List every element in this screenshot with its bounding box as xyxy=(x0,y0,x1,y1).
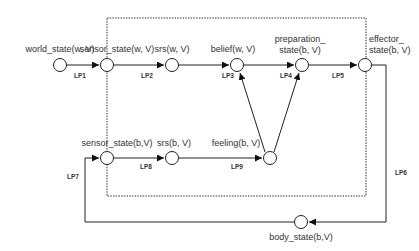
link-label-lp9: LP9 xyxy=(231,163,243,170)
link-label-lp1: LP1 xyxy=(74,72,86,79)
label-belief-w: belief(w, V) xyxy=(211,44,256,54)
node-effector-state-b xyxy=(359,59,372,72)
link-label-lp7: LP7 xyxy=(67,173,79,180)
label-preparation-state-b-line2: state(b, V) xyxy=(279,45,321,55)
edge-feeling-to-preparation xyxy=(274,73,299,152)
label-preparation-state-b-line1: preparation_ xyxy=(275,34,327,44)
node-srs-w xyxy=(166,59,179,72)
node-srs-b xyxy=(166,152,179,165)
label-srs-b: srs(b, V) xyxy=(157,138,191,148)
node-world-state-w xyxy=(54,59,67,72)
node-preparation-state-b xyxy=(296,59,309,72)
label-effector-state-b-line2: state(b, V) xyxy=(369,45,411,55)
label-sensor-state-w: sensor_state(w, V) xyxy=(80,44,155,54)
node-body-state-b xyxy=(295,216,308,229)
edge-lp7 xyxy=(85,158,294,222)
link-label-lp3: LP3 xyxy=(222,72,234,79)
node-sensor-state-w xyxy=(101,59,114,72)
label-feeling-b: feeling(b, V) xyxy=(212,138,261,148)
link-label-lp8: LP8 xyxy=(140,163,152,170)
link-label-lp5: LP5 xyxy=(332,72,344,79)
label-sensor-state-b: sensor_state(b,V) xyxy=(81,138,152,148)
node-belief-w xyxy=(231,59,244,72)
node-feeling-b xyxy=(264,152,277,165)
label-effector-state-b-line1: effector_ xyxy=(369,34,405,44)
link-label-lp4: LP4 xyxy=(280,72,292,79)
link-label-lp6: LP6 xyxy=(395,169,407,176)
edge-lp6 xyxy=(309,65,386,222)
causal-network-diagram: world_state(w, V) sensor_state(w, V) srs… xyxy=(0,0,419,251)
link-label-lp2: LP2 xyxy=(141,72,153,79)
label-srs-w: srs(w, V) xyxy=(155,44,190,54)
node-sensor-state-b xyxy=(101,152,114,165)
label-body-state-b: body_state(b,V) xyxy=(269,232,333,242)
